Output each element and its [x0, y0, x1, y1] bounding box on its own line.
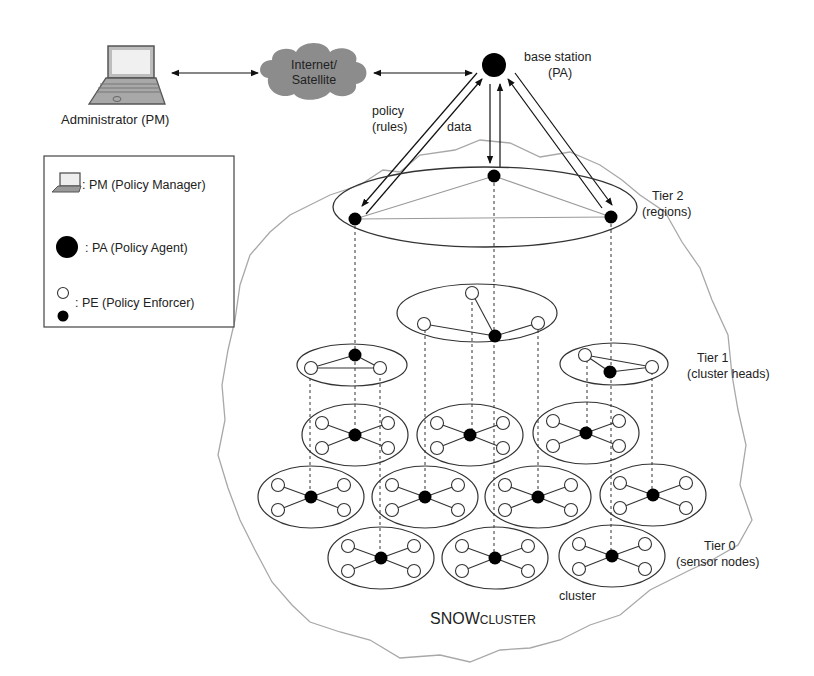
tier1-cluster-center	[397, 284, 557, 343]
legend-pe-open-icon	[58, 288, 69, 299]
policy-label-line1: policy	[372, 104, 405, 118]
tier2-label-line2: (regions)	[642, 205, 691, 219]
laptop-icon	[89, 46, 165, 104]
tier0-label-line1: Tier 0	[704, 539, 736, 553]
tier1-label-line1: Tier 1	[697, 351, 729, 365]
snowcluster-diagram: Administrator (PM) Internet/ Satellite b…	[0, 0, 814, 676]
base-station-label-line2: (PA)	[548, 66, 572, 80]
tier2-label-line1: Tier 2	[652, 189, 684, 203]
data-label: data	[447, 120, 471, 134]
tier1-label-line2: (cluster heads)	[687, 367, 770, 381]
legend-pe-text: : PE (Policy Enforcer)	[75, 296, 194, 310]
policy-data-arrows	[362, 73, 612, 214]
base-station-node	[482, 53, 506, 77]
cluster-label: cluster	[559, 589, 596, 603]
legend-pm-text: : PM (Policy Manager)	[82, 178, 206, 192]
internet-label-line1: Internet/	[291, 58, 337, 72]
policy-label-line2: (rules)	[372, 120, 407, 134]
legend-pa-icon	[56, 236, 78, 258]
internet-label-line2: Satellite	[292, 73, 337, 87]
tier1-cluster-left	[297, 344, 407, 386]
snowcluster-title: SNOWCLUSTER	[430, 610, 536, 627]
tier2-region-group	[333, 167, 637, 247]
legend-pa-text: : PA (Policy Agent)	[85, 241, 188, 255]
base-station-label-line1: base station	[524, 50, 591, 64]
legend: : PM (Policy Manager) : PA (Policy Agent…	[44, 156, 234, 327]
administrator-label: Administrator (PM)	[61, 112, 169, 127]
legend-pe-filled-icon	[58, 311, 69, 322]
tier1-cluster-right	[560, 343, 668, 385]
tier0-sensor-clusters	[258, 402, 706, 589]
tier0-label-line2: (sensor nodes)	[676, 555, 759, 569]
